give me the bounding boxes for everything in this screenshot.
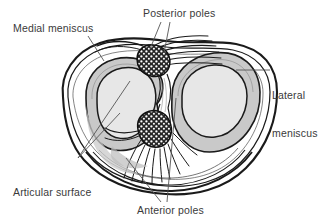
anatomy-figure: Medial meniscus Posterior poles Lateral …	[0, 0, 330, 222]
label-lateral-meniscus-line2: meniscus	[272, 127, 318, 140]
label-articular-surface-of-tibia: Articular surface of tibia	[13, 161, 91, 222]
label-medial-meniscus: Medial meniscus	[13, 22, 93, 34]
label-anterior-poles: Anterior poles	[137, 204, 204, 216]
label-lateral-meniscus: Lateral meniscus	[272, 64, 318, 164]
label-articular-surface-line1: Articular surface	[13, 186, 91, 199]
label-posterior-poles: Posterior poles	[143, 7, 215, 19]
label-lateral-meniscus-line1: Lateral	[272, 89, 318, 102]
